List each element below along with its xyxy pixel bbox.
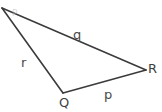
side-label-p: p [104,88,112,101]
vertex-label-r: R [148,62,157,75]
side-label-r: r [21,56,26,69]
vertex-label-q: Q [59,96,69,109]
side-label-q: q [73,28,81,41]
triangle-diagram: q r p Q R P [0,0,162,112]
vertex-label-p: P [12,9,17,18]
